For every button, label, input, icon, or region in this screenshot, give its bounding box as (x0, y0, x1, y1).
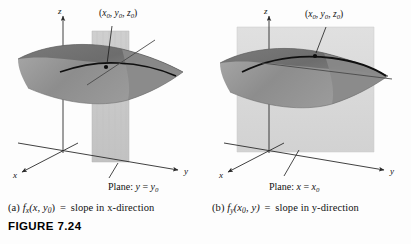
point-label-b: (x0, y0, z0) (305, 9, 343, 20)
surface-z-equals-f (18, 44, 183, 103)
figure-panel-b: (x0, y0, z0) z y x Plane: x = x0 (206, 0, 411, 200)
axis-label-z: z (263, 6, 268, 16)
caption-panel-b: (b) fy(x0, y) = slope in y-direction (212, 202, 359, 215)
axis-label-x: x (12, 170, 17, 180)
caption-b-args-close: , y) (246, 202, 260, 213)
plane-label-leader (109, 163, 118, 178)
caption-b-equals: = (263, 202, 273, 213)
axis-label-z: z (57, 6, 62, 16)
caption-a-args-close: ) (52, 202, 56, 213)
plane-label-a: Plane: y = y0 (108, 181, 159, 193)
tangent-point-marker (104, 65, 108, 69)
caption-a-equals: = (58, 202, 68, 213)
caption-b-text: slope in y-direction (275, 202, 359, 213)
caption-a-prefix: (a) (8, 202, 20, 213)
figure-panel-a: (x0, y0, z0) z y x Plane: y = y0 (0, 0, 205, 200)
figure-container: (x0, y0, z0) z y x Plane: y = y0 (0, 0, 411, 244)
axis-label-x: x (218, 170, 223, 180)
axis-label-y: y (183, 166, 188, 176)
caption-a-text: slope in x-direction (71, 202, 155, 213)
axis-x (22, 143, 78, 172)
caption-a-args: (x, y (29, 202, 48, 213)
tangent-point-marker (313, 54, 317, 58)
point-label-a: (x0, y0, z0) (99, 8, 137, 19)
plane-label-b: Plane: x = x0 (269, 181, 320, 193)
figure-number-label: FIGURE 7.24 (8, 220, 81, 232)
caption-b-prefix: (b) (212, 202, 225, 213)
caption-panel-a: (a) fx(x, y0) = slope in x-direction (8, 202, 154, 215)
caption-b-args: (x (234, 202, 242, 213)
axis-label-y: y (389, 166, 394, 176)
